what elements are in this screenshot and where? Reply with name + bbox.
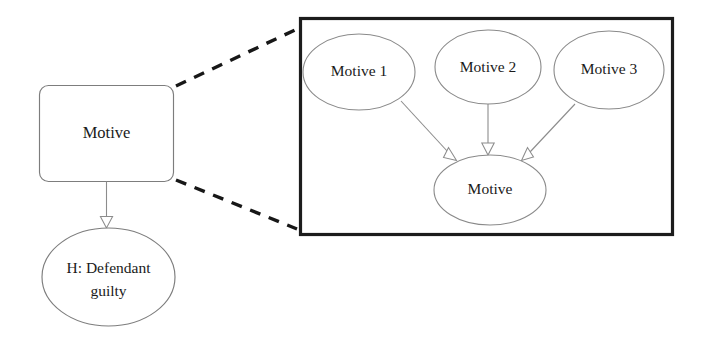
motive-parent-label: Motive	[83, 123, 131, 142]
hypothesis-label-line2: guilty	[90, 282, 126, 299]
edge-motive-to-hypothesis	[100, 182, 112, 229]
motive-1-label: Motive 1	[331, 62, 387, 79]
node-motive-child[interactable]: Motive	[434, 155, 546, 225]
hypothesis-label-line1: H: Defendant	[67, 259, 152, 276]
motive-2-label: Motive 2	[460, 58, 516, 75]
zoom-connectors	[176, 29, 297, 229]
motive-diagram-canvas: Motive H: Defendant guilty	[0, 0, 705, 344]
node-motive-2[interactable]: Motive 2	[435, 30, 541, 104]
detail-panel: Motive 1 Motive 2 Motive 3 Motive	[301, 19, 673, 235]
hypothesis-ellipse	[42, 228, 175, 326]
diagram-root: Motive H: Defendant guilty	[0, 0, 705, 344]
left-graph: Motive H: Defendant guilty	[40, 86, 176, 327]
node-motive-parent[interactable]: Motive	[40, 86, 174, 182]
node-motive-3[interactable]: Motive 3	[554, 31, 664, 109]
zoom-connector-bottom	[176, 180, 297, 229]
zoom-connector-top	[176, 29, 297, 86]
motive-3-label: Motive 3	[581, 60, 638, 77]
node-hypothesis[interactable]: H: Defendant guilty	[42, 228, 175, 326]
node-motive-1[interactable]: Motive 1	[303, 34, 415, 110]
motive-to-hypothesis-arrowhead-icon	[100, 217, 112, 229]
motive-child-label: Motive	[468, 180, 513, 197]
